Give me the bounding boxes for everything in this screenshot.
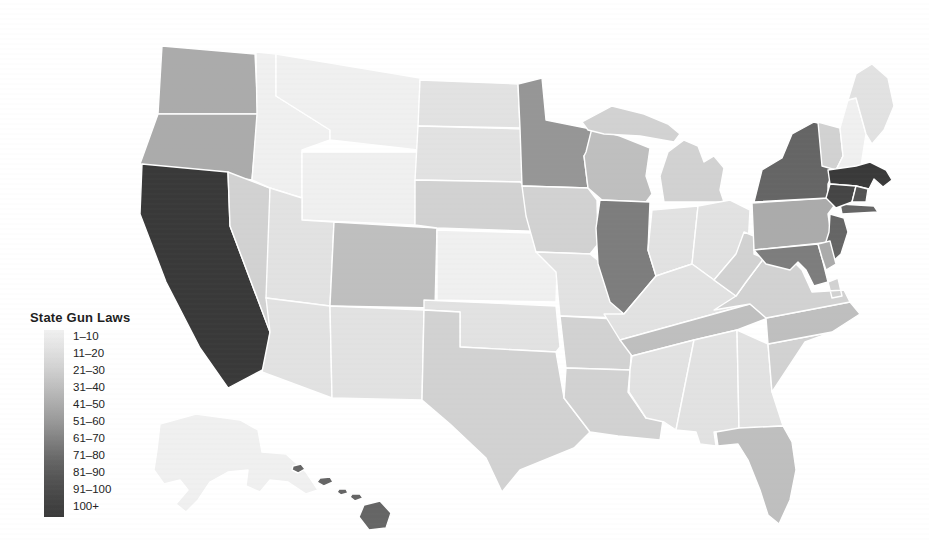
- state-ia: [522, 186, 598, 254]
- state-fl: [716, 426, 796, 524]
- state-wy: [302, 152, 418, 225]
- state-ak: [154, 414, 318, 512]
- legend-label: 71–80: [73, 447, 111, 464]
- legend-gradient-bar: [44, 330, 64, 517]
- legend-label: 81–90: [73, 464, 111, 481]
- legend-label: 51–60: [73, 413, 111, 430]
- figure-state-gun-laws-map: State Gun Laws 1–1011–2021–3031–4041–505…: [0, 0, 929, 540]
- state-nd: [418, 80, 520, 128]
- state-nm: [330, 306, 424, 400]
- legend-label: 100+: [73, 498, 111, 515]
- state-sd: [415, 126, 522, 182]
- legend-label: 41–50: [73, 396, 111, 413]
- legend-label: 31–40: [73, 379, 111, 396]
- legend-label: 21–30: [73, 362, 111, 379]
- state-az: [262, 298, 332, 398]
- state-wi: [584, 128, 652, 202]
- legend-items: 1–1011–2021–3031–4041–5051–6061–7071–808…: [73, 328, 111, 515]
- states-layer: [140, 46, 894, 530]
- legend-label: 61–70: [73, 430, 111, 447]
- state-wa: [158, 46, 258, 114]
- legend-title: State Gun Laws: [30, 310, 148, 325]
- legend-label: 11–20: [73, 345, 111, 362]
- map-legend: State Gun Laws 1–1011–2021–3031–4041–505…: [28, 310, 148, 517]
- legend-label: 1–10: [73, 328, 111, 345]
- legend-label: 91–100: [73, 481, 111, 498]
- state-co: [330, 222, 437, 308]
- state-pa: [752, 198, 834, 250]
